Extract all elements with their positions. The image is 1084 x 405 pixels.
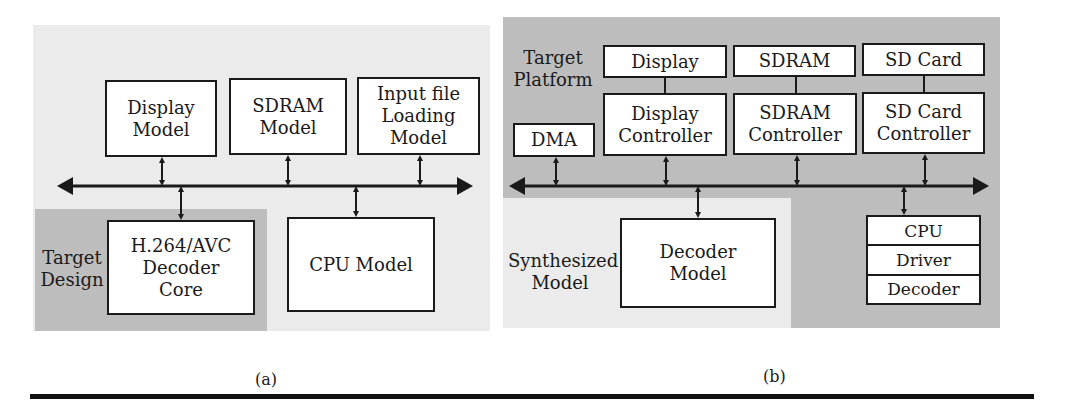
device-controller-links: [665, 76, 924, 93]
bottom-rule: [30, 394, 1034, 399]
system-bus-a: [57, 177, 473, 195]
bus-arrow-left-icon: [57, 177, 73, 195]
bus-arrow-right-icon: [973, 177, 989, 195]
bus-arrow-right-icon: [457, 177, 473, 195]
connectors-layer: [0, 0, 1084, 405]
bus-arrow-left-icon: [509, 177, 525, 195]
system-bus-b: [509, 177, 989, 195]
